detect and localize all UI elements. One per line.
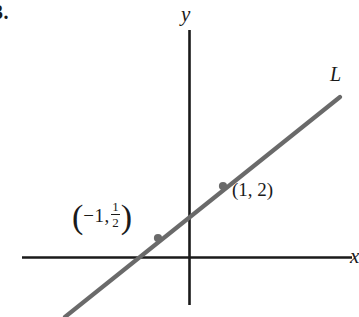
paren-close-a: )	[121, 198, 132, 235]
point-a-comma: ,	[105, 205, 111, 226]
figure-container: 3. y x L (−1,12) (1, 2)	[0, 0, 359, 317]
point-marker-b	[219, 182, 227, 190]
x-axis-label: x	[350, 246, 359, 267]
point-a-fraction: 12	[111, 200, 120, 230]
paren-open-a: (	[72, 198, 83, 235]
y-axis-label: y	[181, 4, 190, 25]
point-label-b: (1, 2)	[232, 180, 273, 199]
point-label-a: (−1,12)	[72, 200, 132, 230]
point-a-x-value: −1	[83, 205, 104, 226]
line-label-L: L	[330, 64, 341, 84]
coordinate-plot	[0, 0, 359, 317]
point-marker-a	[154, 234, 162, 242]
point-a-numerator: 1	[111, 200, 120, 213]
point-a-denominator: 2	[111, 216, 120, 229]
